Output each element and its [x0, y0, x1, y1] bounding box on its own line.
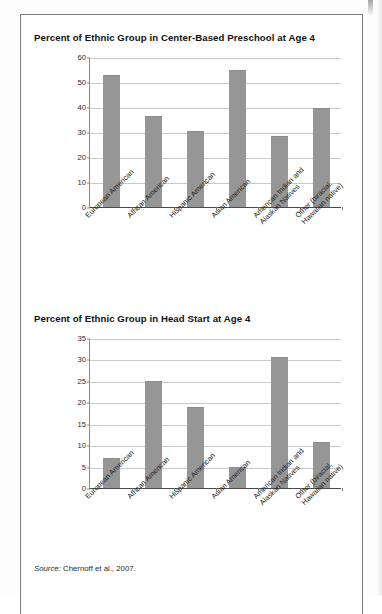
gridline [90, 339, 341, 340]
gridline [90, 425, 341, 426]
y-axis-tick-label: 20 [78, 399, 90, 407]
y-axis-tick-label: 20 [78, 154, 90, 162]
figure-box: Percent of Ethnic Group in Center-Based … [20, 14, 363, 614]
gridline [90, 403, 341, 404]
source-citation: Chernoff et al., 2007. [61, 564, 136, 573]
gridline [90, 83, 341, 84]
source-label: Source: [34, 564, 61, 573]
x-tickmark [342, 207, 343, 210]
chart-1-plot: 0102030405060 European AmericanAfrican A… [21, 15, 362, 292]
gridline [90, 133, 341, 134]
gridline [90, 158, 341, 159]
gridline [90, 446, 341, 447]
gridline [90, 108, 341, 109]
y-axis-tick-label: 30 [78, 129, 90, 137]
gridline [90, 382, 341, 383]
gridline [90, 360, 341, 361]
y-axis-tick-label: 35 [78, 335, 90, 343]
y-axis-tick-label: 25 [78, 378, 90, 386]
scan-edge-artifact [368, 0, 373, 16]
chart-center-based-preschool: Percent of Ethnic Group in Center-Based … [21, 15, 362, 292]
source-note: Source: Chernoff et al., 2007. [34, 564, 136, 573]
y-axis-tick-label: 15 [78, 421, 90, 429]
gridline [90, 58, 341, 59]
y-axis-tick-label: 50 [78, 79, 90, 87]
scan-edge-shadow [376, 0, 382, 595]
y-axis-tick-label: 30 [78, 357, 90, 365]
chart-head-start: Percent of Ethnic Group in Head Start at… [21, 292, 362, 582]
x-tickmark [342, 488, 343, 491]
chart-2-plot: 05101520253035 European AmericanAfrican … [21, 292, 362, 582]
y-axis-tick-label: 10 [78, 179, 90, 187]
y-axis-tick-label: 40 [78, 104, 90, 112]
y-axis-tick-label: 10 [78, 442, 90, 450]
y-axis-tick-label: 5 [82, 464, 90, 472]
y-axis-tick-label: 60 [78, 54, 90, 62]
